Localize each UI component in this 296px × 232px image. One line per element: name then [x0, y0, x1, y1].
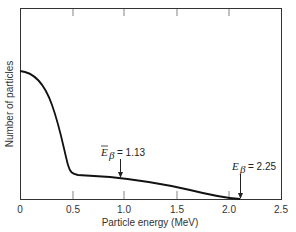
x-tick-0.5: 0.5	[66, 204, 80, 215]
beta-spectrum-chart: 0 0.5 1.0 1.5 2.0 2.5 Particle energy (M…	[0, 0, 296, 232]
top-ticks	[73, 9, 229, 16]
x-tick-0: 0	[17, 204, 23, 215]
mean-energy-annotation: E β = 1.13	[100, 146, 146, 178]
x-tick-2.0: 2.0	[222, 204, 236, 215]
mean-subscript: β	[108, 149, 115, 161]
max-subscript: β	[239, 163, 246, 175]
y-axis-label: Number of particles	[4, 61, 15, 148]
spectrum-curve	[20, 71, 240, 199]
max-energy-annotation: E β = 2.25	[231, 160, 277, 199]
x-tick-1.5: 1.5	[170, 204, 184, 215]
mean-symbol: E	[100, 146, 108, 158]
x-axis-label: Particle energy (MeV)	[102, 217, 199, 228]
bottom-ticks	[73, 191, 229, 199]
x-tick-1.0: 1.0	[117, 204, 131, 215]
x-tick-2.5: 2.5	[274, 204, 288, 215]
max-value: = 2.25	[248, 161, 277, 172]
mean-value: = 1.13	[117, 147, 146, 158]
max-symbol: E	[231, 160, 239, 172]
